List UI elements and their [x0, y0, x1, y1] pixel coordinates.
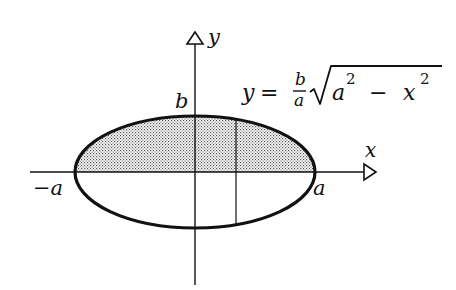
- ellipse-equation: y = b a a 2 − x 2: [241, 66, 442, 110]
- label-neg-a: −a: [33, 176, 63, 200]
- label-a: a: [313, 176, 326, 200]
- eq-frac-num: b: [295, 69, 306, 89]
- eq-exp-x: 2: [420, 70, 430, 88]
- eq-equals: =: [260, 80, 278, 105]
- eq-lhs: y: [241, 80, 255, 105]
- eq-radicand-a: a: [332, 80, 345, 105]
- y-axis-label: y: [207, 25, 221, 49]
- ellipse-diagram: y x b −a a y = b a a 2 − x 2: [0, 0, 456, 290]
- x-axis-arrow-icon: [364, 164, 376, 180]
- eq-frac-den: a: [294, 90, 304, 110]
- eq-radicand-x: x: [403, 80, 416, 105]
- x-axis-label: x: [365, 138, 376, 162]
- label-b: b: [175, 89, 188, 113]
- y-axis-arrow-icon: [187, 32, 203, 44]
- eq-exp-a: 2: [346, 70, 356, 88]
- eq-minus: −: [369, 80, 387, 105]
